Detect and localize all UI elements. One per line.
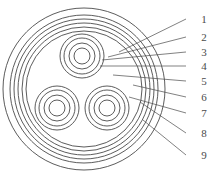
cable-cross-section-figure: 123456789 (0, 0, 215, 176)
callout-number-labels: 123456789 (201, 13, 207, 161)
callout-label-3: 3 (201, 46, 207, 58)
callout-label-1: 1 (201, 13, 207, 25)
callout-label-9: 9 (201, 149, 207, 161)
outer-layer-rings (3, 8, 165, 170)
callout-label-4: 4 (201, 60, 207, 72)
conductor-top-ring-1 (60, 34, 104, 78)
cable-layer-ring-1 (3, 8, 165, 170)
conductor-bottom-right-ring-1 (85, 86, 129, 130)
diagram-canvas: 123456789 (0, 0, 215, 176)
callout-label-7: 7 (201, 107, 207, 119)
callout-label-5: 5 (201, 75, 207, 87)
callout-label-6: 6 (201, 91, 207, 103)
leader-line-9 (143, 120, 186, 155)
conductor-top (60, 34, 104, 78)
conductor-bottom-right (85, 86, 129, 130)
conductor-bottom-left-ring-1 (35, 86, 79, 130)
conductor-bottom-left (35, 86, 79, 130)
callout-label-8: 8 (201, 127, 207, 139)
callout-label-2: 2 (201, 31, 207, 43)
